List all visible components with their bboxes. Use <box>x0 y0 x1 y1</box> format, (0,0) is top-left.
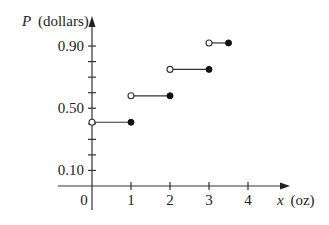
x-axis-unit: (oz) <box>290 192 314 209</box>
y-tick-labels: 0.100.500.90 <box>58 38 84 178</box>
closed-endpoint <box>226 40 232 46</box>
y-axis-unit: (dollars) <box>38 13 89 30</box>
x-axis-arrow-icon <box>280 183 290 190</box>
closed-endpoint <box>167 93 173 99</box>
closed-endpoint <box>128 119 134 125</box>
y-axis-title: P (dollars) <box>21 13 89 30</box>
y-tick-label: 0.10 <box>58 162 84 178</box>
open-endpoint <box>167 66 173 72</box>
step-segment <box>167 66 212 72</box>
y-axis-var: P <box>21 13 31 29</box>
open-endpoint <box>89 119 95 125</box>
x-tick-label: 0 <box>80 192 88 208</box>
step-segment <box>206 40 232 46</box>
y-tick-label: 0.90 <box>58 38 84 54</box>
x-tick-label: 2 <box>166 192 174 208</box>
step-segments <box>89 40 232 125</box>
y-axis-arrow-icon <box>89 16 96 27</box>
x-tick-label: 1 <box>127 192 135 208</box>
open-endpoint <box>128 93 134 99</box>
step-segment <box>128 93 173 99</box>
x-axis-title: x (oz) <box>276 192 315 209</box>
x-tick-label: 3 <box>205 192 213 208</box>
y-tick-label: 0.50 <box>58 100 84 116</box>
x-tick-labels: 01234 <box>80 192 252 208</box>
x-axis-var: x <box>276 192 284 208</box>
x-tick-label: 4 <box>244 192 252 208</box>
closed-endpoint <box>206 66 212 72</box>
step-function-chart: 0.100.500.90 01234 P (dollars) x (oz) <box>0 0 329 225</box>
axes <box>58 22 283 210</box>
open-endpoint <box>206 40 212 46</box>
